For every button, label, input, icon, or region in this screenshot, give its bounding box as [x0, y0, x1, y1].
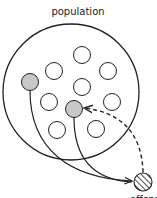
selected-parent-1 — [22, 74, 39, 91]
population-diagram: population offspring — [0, 0, 157, 198]
individual — [46, 63, 63, 80]
individual — [104, 94, 121, 111]
individual — [88, 121, 105, 138]
individual — [41, 94, 58, 111]
individual — [74, 79, 91, 96]
offspring-circle — [134, 173, 152, 191]
diagram-title: population — [51, 6, 104, 17]
selected-parent-2 — [66, 101, 83, 118]
individual — [100, 63, 117, 80]
individuals — [22, 47, 121, 139]
individual — [49, 122, 66, 139]
population-circle — [3, 24, 139, 160]
offspring-label: offspring — [130, 194, 157, 198]
individual — [74, 47, 91, 64]
